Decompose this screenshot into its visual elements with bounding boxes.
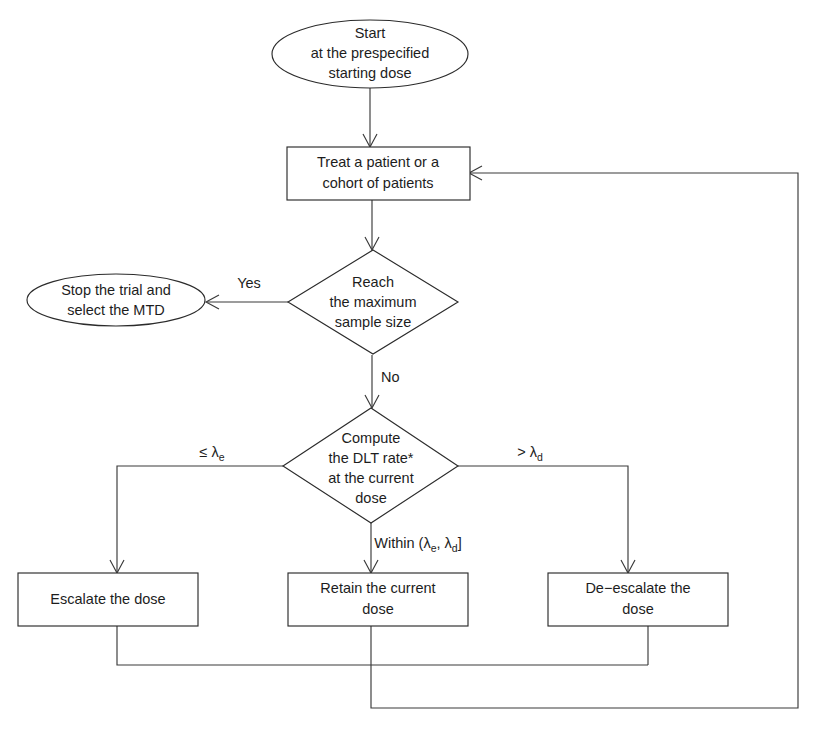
treat-label-line-2: cohort of patients: [322, 175, 433, 191]
escalate-label-line-1: Escalate the dose: [50, 591, 165, 607]
edge-label-no: No: [381, 369, 400, 385]
flowchart-diagram: Start at the prespecified starting dose …: [0, 0, 822, 733]
node-compute-dlt-rate: Compute the DLT rate* at the current dos…: [283, 408, 458, 523]
connector-escalate-feedback: [117, 626, 648, 665]
node-start: Start at the prespecified starting dose: [272, 20, 468, 88]
edge-label-lambda-e: ≤ λe: [199, 444, 224, 463]
flowchart-canvas: Start at the prespecified starting dose …: [0, 0, 822, 733]
retain-label-line-2: dose: [362, 601, 393, 617]
deescalate-label-line-2: dose: [622, 601, 653, 617]
edge-label-within-interval: Within (λe, λd]: [374, 535, 461, 554]
lambda-d-prefix: > λ: [517, 444, 537, 460]
stoptrial-label-line-1: Stop the trial and: [61, 282, 171, 298]
computedlt-label-line-1: Compute: [342, 430, 401, 446]
computedlt-label-line-2: the DLT rate*: [329, 450, 414, 466]
connector-computedlt-to-escalate: [117, 466, 283, 572]
edge-label-lambda-d: > λd: [517, 444, 543, 463]
treat-label-line-1: Treat a patient or a: [317, 154, 440, 170]
node-treat-patient: Treat a patient or a cohort of patients: [287, 147, 470, 200]
start-label-line-3: starting dose: [328, 65, 411, 81]
start-label-line-1: Start: [355, 25, 386, 41]
lambda-d-subscript: d: [537, 451, 543, 463]
computedlt-label-line-4: dose: [355, 490, 386, 506]
lambda-e-prefix: ≤ λ: [199, 444, 219, 460]
node-retain-dose: Retain the current dose: [288, 573, 468, 626]
node-deescalate-dose: De−escalate the dose: [548, 573, 728, 626]
stoptrial-label-line-2: select the MTD: [67, 302, 165, 318]
computedlt-label-line-3: at the current: [328, 470, 413, 486]
within-mid: , λ: [437, 535, 453, 551]
connector-computedlt-to-deescalate: [458, 466, 628, 572]
retain-label-line-1: Retain the current: [320, 580, 435, 596]
start-label-line-2: at the prespecified: [311, 45, 430, 61]
connector-retain-feedback-to-treat: [371, 173, 798, 708]
reachmax-label-line-2: the maximum: [329, 294, 416, 310]
reachmax-label-line-3: sample size: [335, 314, 412, 330]
reachmax-label-line-1: Reach: [352, 274, 394, 290]
within-word: Within (λ: [374, 535, 431, 551]
lambda-e-subscript: e: [219, 451, 225, 463]
deescalate-label-line-1: De−escalate the: [585, 580, 690, 596]
node-stop-trial: Stop the trial and select the MTD: [27, 274, 205, 326]
within-close: ]: [458, 535, 462, 551]
node-reach-max-sample-size: Reach the maximum sample size: [288, 250, 458, 354]
node-escalate-dose: Escalate the dose: [18, 573, 198, 626]
edge-label-yes: Yes: [237, 275, 261, 291]
